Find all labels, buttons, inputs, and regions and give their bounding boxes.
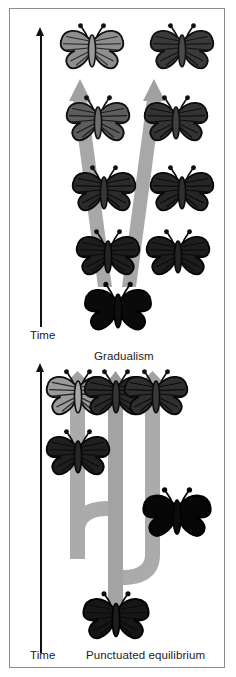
- butterfly-gradualism-left-stage2: [72, 225, 144, 283]
- time-axis-gradualism: [34, 27, 48, 327]
- butterfly-gradualism-right-stage5: [146, 19, 218, 77]
- figure-frame: Time Gradualism: [9, 8, 225, 668]
- time-label-gradualism: Time: [30, 329, 56, 341]
- butterfly-gradualism-left-stage3: [68, 161, 140, 219]
- caption-punctuated-equilibrium: Punctuated equilibrium: [86, 649, 205, 661]
- butterfly-punctuated-descendant-right: [120, 365, 192, 423]
- butterfly-gradualism-right-stage2: [142, 225, 214, 283]
- time-label-punctuated: Time: [30, 649, 56, 661]
- butterfly-gradualism-ancestor: [80, 277, 156, 339]
- figure-root: Time Gradualism: [0, 0, 236, 677]
- butterfly-punctuated-ancestor: [78, 587, 154, 647]
- panel-punctuated-equilibrium: Time Punctuated equilibrium: [10, 349, 224, 667]
- butterfly-gradualism-left-stage4: [62, 91, 134, 149]
- butterfly-punctuated-intermediate-right: [138, 483, 216, 545]
- time-axis-shaft: [40, 34, 42, 327]
- butterfly-gradualism-right-stage4: [140, 91, 212, 149]
- butterfly-punctuated-intermediate-left: [42, 425, 114, 483]
- butterfly-gradualism-left-stage5: [56, 19, 128, 77]
- panel-gradualism: Time Gradualism: [10, 9, 224, 349]
- butterfly-gradualism-right-stage3: [146, 161, 218, 219]
